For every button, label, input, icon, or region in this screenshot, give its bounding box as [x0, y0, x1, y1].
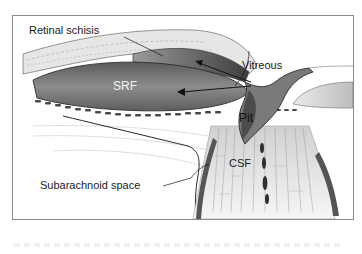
bleed-through-text: [14, 243, 344, 247]
diagram-frame: Retinal schisis SRF Vitreous Pit CSF Sub…: [12, 15, 354, 220]
label-vitreous: Vitreous: [242, 60, 282, 71]
vitreous-surface: [309, 66, 353, 68]
label-csf: CSF: [229, 158, 251, 169]
label-pit: Pit: [239, 112, 253, 124]
right-retina: [293, 82, 353, 108]
label-retinal-schisis: Retinal schisis: [29, 25, 99, 36]
label-srf: SRF: [113, 80, 137, 92]
sclera-lines: [33, 125, 208, 166]
label-subarachnoid-space: Subarachnoid space: [40, 180, 140, 191]
